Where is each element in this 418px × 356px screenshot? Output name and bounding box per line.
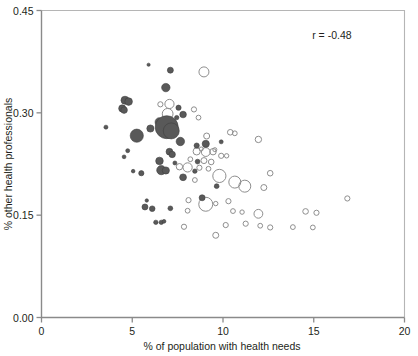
x-tick-label: 10 [217,325,229,337]
data-point-filled [145,199,148,202]
bubble-scatter-figure: 05101520 0.000.150.300.45 r = -0.48 % of… [0,0,418,356]
data-point-open [158,102,163,107]
data-point-filled [154,220,158,224]
data-point-open [314,210,319,215]
data-point-filled [194,143,199,148]
data-point-open [191,107,196,112]
y-tick-label: 0.00 [13,312,34,324]
data-point-open [219,153,224,158]
chart-background [0,0,418,356]
data-point-open [267,170,273,176]
data-point-filled [180,174,187,181]
data-point-filled [169,151,175,157]
data-point-filled [149,206,155,212]
data-point-filled [131,169,135,173]
data-point-filled [214,184,219,189]
data-point-filled [176,105,181,110]
x-tick-label: 20 [399,325,411,337]
data-point-open [176,164,182,170]
data-point-open [199,147,203,151]
data-point-open [186,198,191,203]
correlation-annotation: r = -0.48 [312,29,352,41]
data-point-filled [126,149,130,153]
data-point-open [199,67,209,77]
data-point-open [223,222,228,227]
data-point-filled [167,67,173,73]
data-point-open [290,225,295,230]
data-point-open [239,180,251,192]
x-tick-label: 15 [308,325,320,337]
x-tick-label: 5 [129,325,135,337]
data-point-open [261,185,267,191]
data-point-open [310,225,315,230]
data-point-filled [199,195,205,201]
data-point-open [208,159,214,165]
data-point-filled [156,157,164,165]
data-point-open [268,225,273,230]
data-point-open [213,148,217,152]
annotation-layer: r = -0.48 [312,29,352,41]
data-point-open [232,131,237,136]
data-point-filled [121,107,128,114]
data-point-open [183,163,192,172]
data-point-filled [219,140,223,144]
data-point-open [258,223,263,228]
data-point-filled [162,167,169,174]
y-axis-title: % other health professionals [2,98,14,231]
data-point-filled [180,111,187,118]
data-point-filled [176,137,184,145]
data-point-open [165,99,174,108]
data-point-open [254,209,263,218]
y-tick-label: 0.30 [13,107,34,119]
chart-canvas: 05101520 0.000.150.300.45 r = -0.48 % of… [0,0,418,356]
data-point-filled [147,125,154,132]
data-point-open [243,221,248,226]
data-point-filled [122,155,126,159]
data-point-open [231,209,236,214]
data-point-open [197,165,202,170]
data-point-open [196,115,201,120]
data-point-open [204,133,210,139]
data-point-filled [193,169,197,173]
data-point-filled [173,161,177,165]
data-point-open [213,169,226,182]
data-point-filled [202,140,209,147]
y-tick-label: 0.45 [13,5,34,17]
data-point-open [345,196,350,201]
data-point-open [303,209,309,215]
data-point-filled [130,129,143,142]
data-point-open [201,158,207,164]
data-point-open [206,166,211,171]
data-point-open [192,178,197,183]
data-point-filled [168,206,173,211]
data-point-filled [139,171,144,176]
data-point-open [181,224,186,229]
x-axis-title: % of population with health needs [143,340,300,352]
data-point-filled [195,159,200,164]
data-point-filled [163,123,179,139]
data-point-open [188,157,193,162]
x-tick-label: 0 [39,325,45,337]
data-point-filled [104,125,108,129]
data-point-filled [147,63,150,66]
data-point-open [224,154,228,158]
data-point-filled [162,219,166,223]
y-tick-label: 0.15 [13,209,34,221]
data-point-open [255,136,261,142]
data-point-filled [162,83,170,91]
data-point-open [213,232,219,238]
data-point-open [226,199,231,204]
data-point-open [240,210,244,214]
data-point-open [214,201,218,205]
data-point-open [185,208,190,213]
data-point-filled [142,204,148,210]
data-point-filled [125,98,133,106]
